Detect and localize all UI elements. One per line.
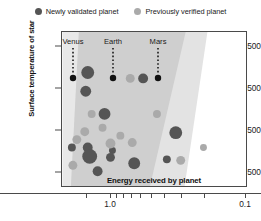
x-tick-label: 1.0 (104, 199, 116, 209)
reference-planet-markers (0, 0, 261, 221)
x-tick-mark (204, 193, 205, 198)
reference-planet-label-venus: Venus (62, 37, 83, 46)
reference-planet-dot (110, 75, 116, 81)
exoplanet-habitable-zone-chart: Newly validated planet Previously verifi… (0, 0, 261, 221)
x-tick-mark (151, 193, 152, 198)
x-tick-mark (110, 193, 111, 198)
x-tick-mark (86, 193, 87, 198)
reference-planet-label-earth: Earth (104, 37, 122, 46)
x-tick-mark (164, 193, 165, 198)
x-axis-label: Energy received by planet (61, 176, 247, 185)
x-tick-mark (140, 193, 141, 198)
x-tick-mark (116, 193, 117, 198)
x-tick-mark (131, 193, 132, 198)
x-tick-label: 0.1 (239, 199, 251, 209)
reference-planet-label-mars: Mars (150, 37, 167, 46)
x-tick-mark (181, 193, 182, 198)
reference-planet-dot (155, 75, 161, 81)
reference-planet-dot (70, 75, 76, 81)
x-tick-mark (123, 193, 124, 198)
x-tick-mark (245, 193, 246, 198)
